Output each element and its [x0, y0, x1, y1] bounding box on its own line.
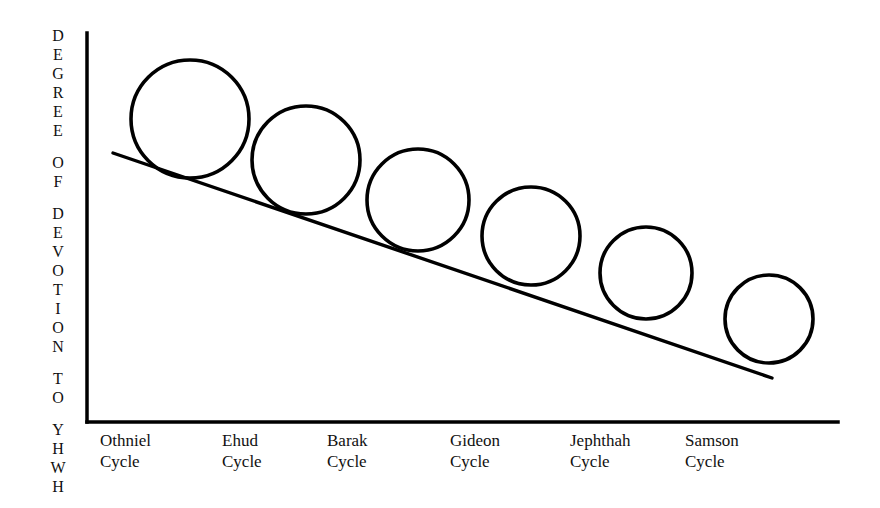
x-axis-label: SamsonCycle: [685, 430, 739, 472]
x-axis-label: JephthahCycle: [570, 430, 630, 472]
x-axis-label-group: OthnielCycleEhudCycleBarakCycleGideonCyc…: [87, 430, 847, 490]
x-axis-label-name: Ehud: [222, 430, 262, 451]
x-axis-label: EhudCycle: [222, 430, 262, 472]
cycle-circle: [482, 187, 580, 285]
x-axis-label-name: Othniel: [100, 430, 151, 451]
x-axis-label-cycle: Cycle: [685, 451, 739, 472]
x-axis-label-cycle: Cycle: [570, 451, 630, 472]
x-axis-label-cycle: Cycle: [327, 451, 368, 472]
declining-trend-line: [113, 153, 772, 378]
x-axis-label-name: Samson: [685, 430, 739, 451]
devotion-decline-chart: DEGREEOFDEVOTIONTOYHWH OthnielCycleEhudC…: [0, 0, 880, 508]
x-axis-label-cycle: Cycle: [100, 451, 151, 472]
cycle-circle: [600, 227, 692, 319]
x-axis-label-name: Gideon: [450, 430, 500, 451]
x-axis-label: BarakCycle: [327, 430, 368, 472]
x-axis-label: OthnielCycle: [100, 430, 151, 472]
x-axis-label-name: Barak: [327, 430, 368, 451]
cycle-circle: [252, 106, 360, 214]
cycle-circle: [131, 60, 249, 178]
x-axis-label: GideonCycle: [450, 430, 500, 472]
x-axis-label-cycle: Cycle: [222, 451, 262, 472]
x-axis-label-name: Jephthah: [570, 430, 630, 451]
cycle-circle-group: [131, 60, 813, 363]
x-axis-label-cycle: Cycle: [450, 451, 500, 472]
cycle-circle: [725, 275, 813, 363]
cycle-circle: [367, 149, 469, 251]
